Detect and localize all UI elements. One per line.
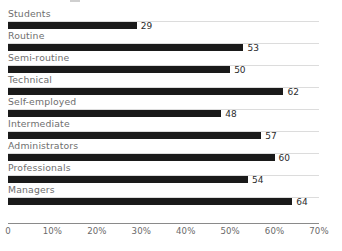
- bar-row: Routine53: [0, 30, 342, 52]
- tick-label: 60%: [265, 226, 284, 236]
- bar-chart: Students29Routine53Semi-routine50Technic…: [0, 0, 342, 251]
- bar: [8, 154, 275, 161]
- x-axis-tick-labels: 010%20%30%40%50%60%70%: [0, 226, 342, 240]
- category-label: Managers: [8, 184, 55, 195]
- bar-row: Technical62: [0, 74, 342, 96]
- bar: [8, 22, 137, 29]
- tick-label: 20%: [87, 226, 106, 236]
- category-label: Administrators: [8, 140, 78, 151]
- category-label: Intermediate: [8, 118, 70, 129]
- category-label: Professionals: [8, 162, 71, 173]
- bar: [8, 110, 221, 117]
- tick-label: 30%: [132, 226, 151, 236]
- category-label: Semi-routine: [8, 52, 69, 63]
- tick-label: 0: [5, 226, 11, 236]
- tick-label: 70%: [309, 226, 328, 236]
- bar-row: Administrators60: [0, 140, 342, 162]
- bar: [8, 66, 230, 73]
- bar-row: Self-employed48: [0, 96, 342, 118]
- bar-row: Managers64: [0, 184, 342, 206]
- category-label: Routine: [8, 30, 45, 41]
- category-label: Self-employed: [8, 96, 76, 107]
- category-label: Technical: [8, 74, 52, 85]
- bar-value-label: 64: [296, 197, 307, 207]
- bar: [8, 132, 261, 139]
- bar-row: Professionals54: [0, 162, 342, 184]
- bar: [8, 44, 243, 51]
- tick-label: 50%: [220, 226, 239, 236]
- cropped-title-remnant: [70, 0, 80, 2]
- plot-area: Students29Routine53Semi-routine50Technic…: [0, 8, 342, 206]
- bar: [8, 176, 248, 183]
- x-axis-line: [8, 223, 319, 224]
- bar: [8, 198, 292, 205]
- bar-row: Semi-routine50: [0, 52, 342, 74]
- tick-label: 10%: [43, 226, 62, 236]
- category-label: Students: [8, 8, 51, 19]
- bar-row: Intermediate57: [0, 118, 342, 140]
- bar: [8, 88, 283, 95]
- tick-label: 40%: [176, 226, 195, 236]
- bar-row: Students29: [0, 8, 342, 30]
